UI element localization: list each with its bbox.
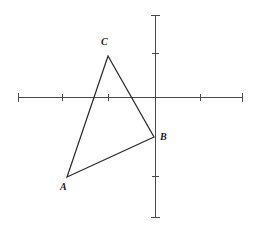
triangle-abc-outline (67, 56, 154, 177)
vertex-label-a: A (60, 182, 67, 192)
x-axis-group (18, 93, 243, 102)
figure-canvas (0, 0, 255, 233)
vertex-label-c: C (101, 37, 108, 47)
vertex-label-b: B (160, 132, 167, 142)
triangle-abc (67, 56, 154, 177)
coordinate-plane-figure: A B C (0, 0, 255, 233)
y-axis-group (151, 15, 160, 218)
